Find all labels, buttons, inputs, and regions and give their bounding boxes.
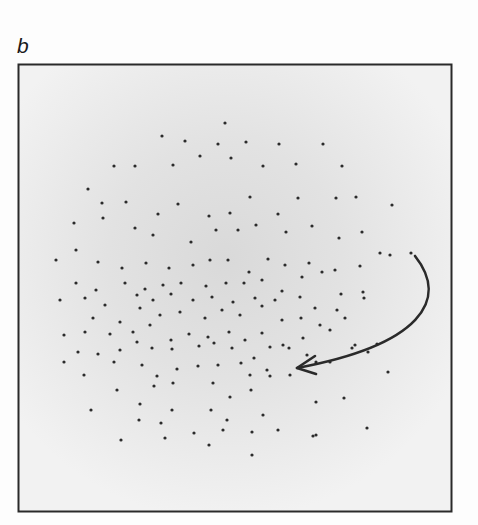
data-dot (72, 221, 75, 224)
data-dot (143, 287, 146, 290)
data-dot (207, 443, 210, 446)
scatter-figure (0, 0, 478, 525)
data-dot (318, 323, 321, 326)
data-dot (244, 140, 247, 143)
data-dot (288, 373, 291, 376)
data-dot (140, 363, 143, 366)
data-dot (314, 433, 317, 436)
data-dot (133, 226, 136, 229)
data-dot (250, 430, 253, 433)
data-dot (294, 162, 297, 165)
data-dot (337, 236, 340, 239)
data-dot (260, 278, 263, 281)
data-dot (171, 381, 174, 384)
data-dot (365, 426, 368, 429)
data-dot (158, 313, 161, 316)
data-dot (91, 316, 94, 319)
data-dot (131, 330, 134, 333)
data-dot (120, 266, 123, 269)
data-dot (243, 338, 246, 341)
data-dot (204, 284, 207, 287)
data-dot (340, 164, 343, 167)
data-dot (360, 230, 363, 233)
data-dot (248, 373, 251, 376)
data-dot (148, 323, 151, 326)
data-dot (137, 418, 140, 421)
data-dot (112, 360, 115, 363)
data-dot (112, 164, 115, 167)
data-dot (334, 196, 337, 199)
data-dot (227, 330, 230, 333)
data-dot (74, 281, 77, 284)
data-dot (390, 203, 393, 206)
data-dot (378, 251, 381, 254)
data-dot (353, 343, 356, 346)
data-dot (211, 381, 214, 384)
data-dot (216, 142, 219, 145)
data-dot (276, 428, 279, 431)
data-dot (54, 258, 57, 261)
data-dot (311, 434, 314, 437)
data-dot (273, 298, 276, 301)
data-dot (250, 453, 253, 456)
data-dot (191, 263, 194, 266)
data-dot (224, 281, 227, 284)
data-dot (350, 346, 353, 349)
data-dot (301, 336, 304, 339)
data-dot (280, 289, 283, 292)
data-dot (296, 196, 299, 199)
data-dot (268, 374, 271, 377)
data-dot (101, 216, 104, 219)
data-dot (115, 388, 118, 391)
data-dot (163, 436, 166, 439)
data-dot (320, 270, 323, 273)
data-dot (281, 343, 284, 346)
data-dot (183, 139, 186, 142)
data-dot (361, 290, 364, 293)
data-dot (196, 364, 199, 367)
data-dot (276, 212, 279, 215)
data-dot (133, 164, 136, 167)
data-dot (151, 298, 154, 301)
data-dot (170, 408, 173, 411)
data-dot (103, 303, 106, 306)
data-dot (124, 200, 127, 203)
data-dot (298, 295, 301, 298)
data-dot (343, 316, 346, 319)
data-dot (300, 275, 303, 278)
data-dot (260, 304, 263, 307)
data-dot (62, 333, 65, 336)
data-dot (307, 261, 310, 264)
data-dot (207, 214, 210, 217)
data-dot (155, 374, 158, 377)
data-dot (214, 228, 217, 231)
data-dot (96, 260, 99, 263)
data-dot (231, 300, 234, 303)
data-dot (284, 230, 287, 233)
data-dot (310, 224, 313, 227)
data-dot (197, 344, 200, 347)
data-dot (62, 360, 65, 363)
data-dot (299, 316, 302, 319)
data-dot (108, 332, 111, 335)
data-dot (223, 121, 226, 124)
data-dot (321, 142, 324, 145)
data-dot (175, 367, 178, 370)
data-dot (94, 288, 97, 291)
data-dot (138, 402, 141, 405)
data-dot (225, 418, 228, 421)
data-dot (248, 195, 251, 198)
data-dot (169, 338, 172, 341)
data-dot (192, 431, 195, 434)
data-dot (261, 164, 264, 167)
data-dot (333, 268, 336, 271)
data-dot (228, 211, 231, 214)
data-dot (339, 292, 342, 295)
data-dot (287, 346, 290, 349)
data-dot (191, 298, 194, 301)
data-dot (100, 201, 103, 204)
data-dot (220, 308, 223, 311)
data-dot (161, 283, 164, 286)
data-dot (179, 281, 182, 284)
data-dot (254, 223, 257, 226)
